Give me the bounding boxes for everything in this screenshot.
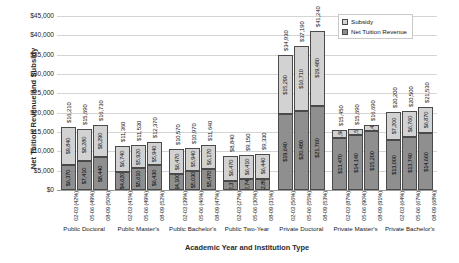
bar-segment-net-tuition-revenue[interactable]: $7,410	[77, 161, 92, 190]
stacked-bar[interactable]: $21,530$6,870$14,660	[418, 107, 433, 190]
bar-segment-net-tuition-revenue[interactable]: $2,740	[239, 179, 254, 190]
bar-segment-subsidy[interactable]: $5,940	[185, 148, 200, 171]
x-axis-group: 02-03 (56%)05-06 (55%)08-09 (53%)Private…	[274, 190, 328, 238]
bar-segment-net-tuition-revenue[interactable]: $13,470	[332, 138, 347, 190]
bar-segment-label-net-tuition-revenue: $4,100	[174, 174, 180, 190]
x-axis-group-label: Public Two-Year	[220, 225, 274, 232]
bar-segment-net-tuition-revenue[interactable]: $6,370	[61, 165, 76, 190]
bar-segment-subsidy[interactable]: $6,760	[402, 111, 417, 137]
bar-segment-subsidy[interactable]: $6,470	[223, 156, 238, 181]
bar-segment-subsidy[interactable]: $6,740	[115, 146, 130, 172]
bar-segment-subsidy[interactable]: $6,440	[255, 154, 270, 179]
plot-area: $0$5,000$10,000$15,000$20,000$25,000$30,…	[57, 16, 437, 190]
bar-segment-subsidy[interactable]: $6,470	[169, 149, 184, 174]
stacked-bar[interactable]: $16,210$9,840$6,370	[61, 127, 76, 190]
bar-segment-net-tuition-revenue[interactable]: $19,640	[278, 114, 293, 190]
bar-total-label: $11,640	[207, 121, 213, 141]
bar-segment-subsidy[interactable]: $16,710	[294, 46, 309, 111]
bar-segment-net-tuition-revenue[interactable]: $2,370	[223, 181, 238, 190]
bar-segment-subsidy[interactable]: $15,290	[278, 55, 293, 114]
stacked-bar[interactable]: $15,690$1,550$14,140	[348, 129, 363, 190]
stacked-bar[interactable]: $8,840$6,470$2,370	[223, 156, 238, 190]
legend-swatch-subsidy	[342, 19, 348, 25]
stacked-bar[interactable]: $16,690$1,490$15,200	[364, 125, 379, 190]
x-axis-group-label: Private Doctoral	[274, 225, 328, 232]
stacked-bar[interactable]: $15,690$8,280$7,410	[77, 129, 92, 190]
bar-segment-label-net-tuition-revenue: $8,440	[97, 165, 103, 182]
x-axis-tick: 02-03 (39%)	[169, 190, 184, 224]
bar-segment-subsidy[interactable]: $9,840	[61, 127, 76, 165]
stacked-bar[interactable]: $15,450$1,980$13,470	[332, 130, 347, 190]
legend-swatch-net-tuition-revenue	[342, 29, 348, 35]
bar-segment-subsidy[interactable]: $1,980	[332, 130, 347, 138]
stacked-bar[interactable]: $11,640$6,170$5,470	[201, 145, 216, 190]
bar-segment-subsidy[interactable]: $6,170	[201, 145, 216, 169]
bar-segment-label-net-tuition-revenue: $21,760	[314, 138, 320, 158]
legend-item-subsidy: Subsidy	[342, 18, 407, 25]
stacked-bar[interactable]: $41,240$19,480$21,760	[310, 31, 325, 190]
stacked-bar[interactable]: $37,190$16,710$20,480	[294, 46, 309, 190]
x-axis-group: 02-03 (41%)05-06 (49%)08-09 (52%)Public …	[111, 190, 165, 238]
y-axis-tick-label: $45,000	[10, 12, 54, 19]
bar-segment-net-tuition-revenue[interactable]: $6,430	[147, 165, 162, 190]
bar-group: $34,930$15,290$19,640$37,190$16,710$20,4…	[274, 16, 328, 190]
bar-segment-subsidy[interactable]: $8,290	[93, 125, 108, 157]
stacked-bar[interactable]: $20,200$7,200$13,000	[386, 112, 401, 190]
bar-segment-net-tuition-revenue[interactable]: $21,760	[310, 106, 325, 190]
x-axis-group-label: Private Bachelor's	[383, 225, 437, 232]
x-axis-tick-label: 08-09 (31%)	[268, 191, 274, 221]
bar-segment-subsidy[interactable]: $6,870	[418, 107, 433, 134]
bar-segment-label-net-tuition-revenue: $2,370	[228, 181, 234, 190]
x-axis-tick-label: 08-09 (91%)	[377, 191, 383, 221]
bar-segment-net-tuition-revenue[interactable]: $13,740	[402, 137, 417, 190]
bar-segment-label-subsidy: $6,760	[407, 116, 413, 133]
stacked-bar[interactable]: $20,500$6,760$13,740	[402, 111, 417, 190]
bar-segment-net-tuition-revenue[interactable]: $20,480	[294, 111, 309, 190]
bar-segment-subsidy[interactable]: $5,940	[147, 142, 162, 165]
bar-segment-net-tuition-revenue[interactable]: $8,440	[93, 157, 108, 190]
x-axis-tick: 08-09 (68%)	[418, 190, 433, 224]
y-axis-tick-label: $15,000	[10, 128, 54, 135]
bar-segment-net-tuition-revenue[interactable]: $2,890	[255, 179, 270, 190]
stacked-bar[interactable]: $10,570$6,470$4,100	[169, 149, 184, 190]
bar-segment-label-subsidy: $6,870	[423, 112, 429, 129]
bar-segment-subsidy[interactable]: $7,200	[386, 112, 401, 140]
y-axis-tick-label: $35,000	[10, 51, 54, 58]
stacked-bar[interactable]: $11,360$6,740$4,620	[115, 146, 130, 190]
bar-segment-label-net-tuition-revenue: $13,740	[407, 154, 413, 174]
bar-segment-net-tuition-revenue[interactable]: $4,620	[115, 172, 130, 190]
bar-segment-net-tuition-revenue[interactable]: $5,470	[201, 169, 216, 190]
bar-segment-subsidy[interactable]: $6,410	[239, 155, 254, 180]
bar-segment-label-net-tuition-revenue: $13,470	[337, 154, 343, 174]
stacked-bar[interactable]: $12,370$5,940$6,430	[147, 142, 162, 190]
bar-total-label: $16,690	[370, 101, 376, 122]
bar-segment-net-tuition-revenue[interactable]: $14,660	[418, 133, 433, 190]
bar-total-label: $37,190	[299, 22, 305, 43]
bar-total-label: $41,240	[315, 6, 321, 27]
bar-segment-net-tuition-revenue[interactable]: $4,100	[169, 174, 184, 190]
stacked-bar[interactable]: $10,970$5,940$5,030	[185, 148, 200, 190]
x-axis-tick: 05-06 (67%)	[402, 190, 417, 224]
bar-segment-net-tuition-revenue[interactable]: $5,610	[131, 168, 146, 190]
bar-segment-subsidy[interactable]: $8,280	[77, 129, 92, 161]
x-axis-group-label: Private Master's	[328, 225, 382, 232]
stacked-bar[interactable]: $9,330$6,440$2,890	[255, 154, 270, 190]
bar-segment-label-subsidy: $6,410	[244, 159, 250, 176]
stacked-bar[interactable]: $9,150$6,410$2,740	[239, 155, 254, 190]
bar-segment-net-tuition-revenue[interactable]: $15,200	[364, 131, 379, 190]
bar-segment-subsidy[interactable]: $5,920	[131, 145, 146, 168]
x-axis-group: 02-03 (87%)05-06 (90%)08-09 (91%)Private…	[328, 190, 382, 238]
stacked-bar[interactable]: $34,930$15,290$19,640	[278, 55, 293, 190]
legend: Subsidy Net Tuition Revenue	[338, 14, 413, 39]
bar-segment-net-tuition-revenue[interactable]: $14,140	[348, 135, 363, 190]
bar-segment-subsidy[interactable]: $19,480	[310, 31, 325, 106]
bar-segment-net-tuition-revenue[interactable]: $13,000	[386, 140, 401, 190]
bar-segment-label-net-tuition-revenue: $7,410	[81, 167, 87, 184]
bar-total-label: $11,530	[136, 121, 142, 141]
bar-segment-net-tuition-revenue[interactable]: $5,030	[185, 171, 200, 190]
bar-total-label: $16,730	[98, 101, 104, 122]
x-axis-tick-label: 08-09 (50%)	[105, 191, 111, 221]
stacked-bar[interactable]: $11,530$5,920$5,610	[131, 145, 146, 190]
x-axis-tick: 08-09 (53%)	[310, 190, 325, 224]
stacked-bar[interactable]: $16,730$8,290$8,440	[93, 125, 108, 190]
